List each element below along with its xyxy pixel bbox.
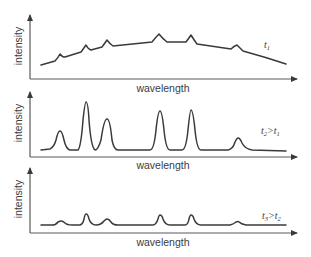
panel-t2: intensity wavelength t2>t1 — [12, 92, 297, 171]
time-label-t1: t1 — [264, 39, 270, 51]
y-axis-label: intensity — [12, 26, 24, 65]
spectrum-curve-t2 — [41, 102, 286, 151]
y-axis-label: intensity — [12, 179, 24, 218]
x-axis-label: wavelength — [135, 82, 189, 94]
panel-t3: intensity wavelength t3>t2 — [12, 168, 297, 248]
time-label-t3: t3>t2 — [262, 210, 282, 222]
y-axis-label: intensity — [12, 103, 24, 142]
x-axis-label: wavelength — [135, 236, 189, 248]
panel-t1: intensity wavelength t1 — [12, 15, 297, 94]
spectra-figure: intensity wavelength t1 intensity wavele… — [0, 0, 311, 257]
spectrum-curve-t1 — [41, 34, 286, 65]
spectrum-curve-t3 — [41, 214, 286, 225]
x-axis-label: wavelength — [135, 159, 189, 171]
time-label-t2: t2>t1 — [261, 125, 280, 137]
